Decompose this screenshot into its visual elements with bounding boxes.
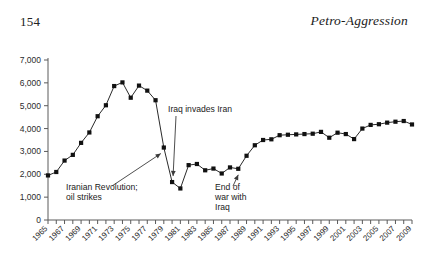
annotation-iranian-revolution-arrowhead	[155, 154, 161, 159]
x-axis-tick-label: 1973	[97, 224, 116, 243]
data-point-marker	[236, 167, 240, 171]
data-point-marker	[137, 84, 141, 88]
data-point-marker	[46, 173, 50, 177]
annotation-iraq-invades-iran-leader-line	[173, 116, 176, 176]
data-point-marker	[153, 98, 157, 102]
x-axis-tick-label: 2009	[394, 224, 413, 243]
y-axis-tick-label: 6,000	[20, 78, 42, 88]
data-point-marker	[352, 137, 356, 141]
x-axis-tick-label: 2007	[378, 224, 397, 243]
y-axis-tick-label: 7,000	[20, 55, 42, 65]
annotation-iranian-revolution-text: Iranian Revolution;	[66, 182, 138, 192]
data-point-marker	[54, 170, 58, 174]
y-axis-tick-label: 5,000	[20, 101, 42, 111]
data-point-marker	[195, 162, 199, 166]
x-axis-tick-label: 2005	[361, 224, 380, 243]
data-point-marker	[261, 138, 265, 142]
data-series	[46, 80, 414, 190]
data-point-marker	[402, 119, 406, 123]
data-point-marker	[104, 103, 108, 107]
data-point-marker	[96, 114, 100, 118]
y-axis-tick-label: 4,000	[20, 124, 42, 134]
data-point-marker	[410, 122, 414, 126]
x-axis-tick-label: 1965	[30, 224, 49, 243]
x-axis-tick-label: 1969	[64, 224, 83, 243]
x-axis-tick-label: 2001	[328, 224, 347, 243]
data-point-marker	[79, 141, 83, 145]
data-point-marker	[187, 163, 191, 167]
data-point-marker	[87, 130, 91, 134]
data-point-marker	[302, 132, 306, 136]
data-point-marker	[369, 123, 373, 127]
data-point-marker	[393, 120, 397, 124]
data-point-marker	[112, 84, 116, 88]
x-axis-tick-label: 1989	[229, 224, 248, 243]
x-axis-tick-label: 1983	[179, 224, 198, 243]
data-point-marker	[294, 132, 298, 136]
x-axis-tick-label: 1981	[163, 224, 182, 243]
x-axis-tick-label: 1993	[262, 224, 281, 243]
x-axis-tick-label: 2003	[345, 224, 364, 243]
y-axis: 01,0002,0003,0004,0005,0006,0007,000	[20, 55, 48, 225]
data-point-marker	[269, 137, 273, 141]
book-page: 154 Petro-Aggression 01,0002,0003,0004,0…	[0, 0, 430, 256]
x-axis-tick-label: 1991	[246, 224, 265, 243]
annotation-end-of-war-with-iraq-text: End of	[215, 182, 240, 192]
data-point-marker	[120, 80, 124, 84]
x-axis-tick-label: 1977	[130, 224, 149, 243]
y-axis-tick-label: 2,000	[20, 169, 42, 179]
data-point-marker	[286, 133, 290, 137]
data-point-marker	[211, 166, 215, 170]
x-axis-tick-label: 1985	[196, 224, 215, 243]
x-axis: 1965196719691971197319751977197919811983…	[30, 220, 413, 243]
data-point-marker	[220, 171, 224, 175]
data-point-marker	[129, 96, 133, 100]
data-point-marker	[178, 186, 182, 190]
data-point-marker	[228, 165, 232, 169]
y-axis-tick-label: 1,000	[20, 192, 42, 202]
data-point-marker	[170, 180, 174, 184]
annotation-end-of-war-with-iraq-text: Iraq	[215, 202, 230, 212]
data-point-marker	[335, 131, 339, 135]
data-point-marker	[377, 122, 381, 126]
x-axis-tick-label: 1967	[47, 224, 66, 243]
annotations-layer: Iranian Revolution;oil strikesIraq invad…	[66, 104, 247, 212]
data-point-marker	[311, 132, 315, 136]
x-axis-tick-label: 1979	[146, 224, 165, 243]
annotation-end-of-war-with-iraq-text: war with	[214, 192, 247, 202]
y-axis-tick-label: 0	[36, 215, 41, 225]
chart-canvas: 01,0002,0003,0004,0005,0006,0007,000 196…	[0, 0, 430, 256]
x-axis-tick-label: 1975	[113, 224, 132, 243]
oil-production-line-chart: 01,0002,0003,0004,0005,0006,0007,000 196…	[0, 0, 430, 256]
data-point-marker	[319, 130, 323, 134]
data-point-marker	[360, 126, 364, 130]
data-point-marker	[162, 145, 166, 149]
y-axis-tick-label: 3,000	[20, 146, 42, 156]
data-point-marker	[327, 136, 331, 140]
x-axis-tick-label: 1997	[295, 224, 314, 243]
data-point-marker	[244, 154, 248, 158]
x-axis-tick-label: 1999	[312, 224, 331, 243]
data-point-marker	[203, 168, 207, 172]
x-axis-tick-label: 1971	[80, 224, 99, 243]
data-point-marker	[62, 158, 66, 162]
annotation-iraq-invades-iran-arrowhead	[171, 171, 176, 176]
data-point-marker	[344, 132, 348, 136]
annotation-iraq-invades-iran-text: Iraq invades Iran	[168, 104, 232, 114]
data-point-marker	[278, 133, 282, 137]
data-point-marker	[385, 121, 389, 125]
annotation-iranian-revolution-text: oil strikes	[66, 192, 102, 202]
series-line-iran-oil-production	[48, 82, 412, 188]
data-point-marker	[71, 153, 75, 157]
x-axis-tick-label: 1995	[279, 224, 298, 243]
x-axis-tick-label: 1987	[212, 224, 231, 243]
data-point-marker	[145, 89, 149, 93]
data-point-marker	[253, 143, 257, 147]
